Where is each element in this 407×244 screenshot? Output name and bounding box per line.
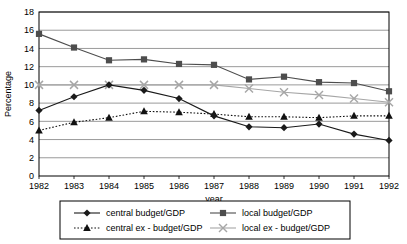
series-marker-square: [106, 57, 112, 63]
y-tick-label: 0: [29, 171, 34, 181]
y-tick-label: 16: [24, 25, 34, 35]
series-marker-square: [316, 79, 322, 85]
series-marker-square: [141, 56, 147, 62]
legend-label: central ex - budget/GDP: [106, 223, 203, 233]
series-marker-square: [386, 88, 392, 94]
line-chart: 024681012141618Percentage198219831984198…: [0, 0, 407, 244]
series-marker-square: [71, 44, 77, 50]
y-axis-labels: 024681012141618: [24, 7, 34, 181]
legend-label: local ex - budget/GDP: [242, 223, 330, 233]
x-tick-label: 1984: [99, 181, 119, 191]
y-tick-label: 18: [24, 7, 34, 17]
x-tick-label: 1986: [169, 181, 189, 191]
plot-background: [39, 12, 389, 176]
x-axis-labels: 1982198319841985198619871988198919901991…: [29, 176, 399, 191]
y-tick-label: 10: [24, 80, 34, 90]
x-tick-label: 1991: [344, 181, 364, 191]
y-tick-label: 2: [29, 153, 34, 163]
series-marker-square: [176, 61, 182, 67]
x-tick-label: 1985: [134, 181, 154, 191]
legend-marker-square: [220, 210, 226, 216]
x-tick-label: 1990: [309, 181, 329, 191]
series-marker-square: [281, 74, 287, 80]
y-tick-label: 4: [29, 135, 34, 145]
x-tick-label: 1987: [204, 181, 224, 191]
x-tick-label: 1983: [64, 181, 84, 191]
legend: central budget/GDPlocal budget/GDPcentra…: [60, 201, 350, 239]
x-tick-label: 1992: [379, 181, 399, 191]
x-tick-label: 1988: [239, 181, 259, 191]
series-marker-square: [36, 31, 42, 37]
y-tick-label: 8: [29, 98, 34, 108]
legend-label: central budget/GDP: [106, 208, 185, 218]
x-tick-label: 1982: [29, 181, 49, 191]
series-marker-square: [211, 62, 217, 68]
y-tick-label: 6: [29, 117, 34, 127]
chart-container: 024681012141618Percentage198219831984198…: [0, 0, 407, 244]
series-marker-square: [351, 80, 357, 86]
series-marker-square: [246, 76, 252, 82]
y-tick-label: 12: [24, 62, 34, 72]
y-tick-label: 14: [24, 44, 34, 54]
legend-label: local budget/GDP: [242, 208, 313, 218]
x-tick-label: 1989: [274, 181, 294, 191]
y-axis-title: Percentage: [3, 71, 13, 117]
